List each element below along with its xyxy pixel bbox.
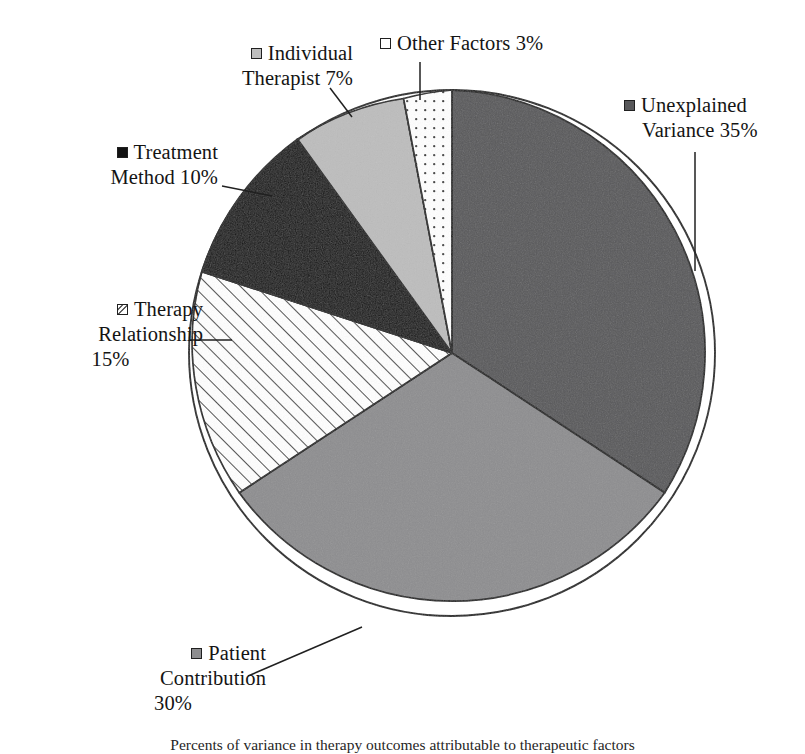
legend-swatch-individual-therapist — [251, 48, 262, 59]
pie-label-other-factors: Other Factors 3% — [380, 31, 543, 56]
pie-label-treatment-method-line1: Treatment — [134, 141, 218, 163]
pie-label-therapy-relationship-line1: Therapy — [134, 298, 203, 320]
pie-label-therapy-relationship-line3: 15% — [18, 347, 203, 372]
pie-label-individual-therapist-line2: Therapist 7% — [231, 66, 353, 91]
pie-label-therapy-relationship: Therapy Relationship 15% — [18, 297, 203, 372]
pie-label-individual-therapist: Individual Therapist 7% — [231, 41, 353, 91]
legend-swatch-treatment-method — [117, 147, 128, 158]
pie-label-unexplained-variance: Unexplained Variance 35% — [624, 93, 758, 143]
pie-label-patient-contribution: Patient Contribution 30% — [80, 641, 266, 716]
legend-swatch-other-factors — [380, 38, 391, 49]
pie-label-unexplained-variance-line2: Variance 35% — [624, 118, 758, 143]
pie-label-patient-contribution-line3: 30% — [80, 691, 266, 716]
pie-label-individual-therapist-line1: Individual — [268, 42, 353, 64]
pie-label-treatment-method-line2: Method 10% — [68, 165, 218, 190]
pie-label-patient-contribution-line2: Contribution — [80, 666, 266, 691]
pie-label-unexplained-variance-line1: Unexplained — [641, 94, 747, 116]
legend-swatch-patient-contribution — [191, 648, 202, 659]
figure-caption: Percents of variance in therapy outcomes… — [0, 735, 805, 754]
pie-label-patient-contribution-line1: Patient — [208, 642, 266, 664]
legend-swatch-unexplained-variance — [624, 100, 635, 111]
leader-line-individual-therapist — [330, 88, 352, 117]
pie-label-therapy-relationship-line2: Relationship — [18, 322, 203, 347]
pie-label-treatment-method: Treatment Method 10% — [68, 140, 218, 190]
legend-swatch-therapy-relationship — [117, 304, 128, 315]
pie-label-other-factors-line1: Other Factors 3% — [397, 32, 543, 54]
